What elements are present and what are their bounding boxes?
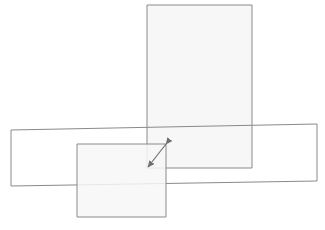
figure-canvas [0, 0, 325, 230]
small-square[interactable] [77, 144, 166, 217]
figure-svg [0, 0, 325, 230]
